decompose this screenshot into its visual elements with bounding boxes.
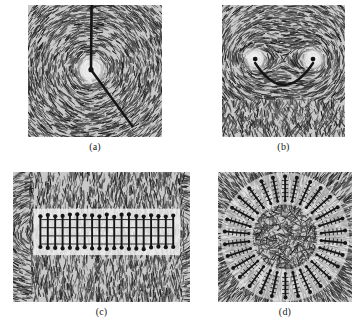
panel-d xyxy=(218,172,352,302)
panel-a-texture xyxy=(28,5,162,137)
panel-b xyxy=(222,5,345,137)
panel-c-caption: (c) xyxy=(13,306,190,317)
figure-root: (a)(b)(c)(d) xyxy=(0,0,362,331)
panel-b-caption: (b) xyxy=(222,141,345,152)
panel-a xyxy=(28,5,162,137)
panel-c xyxy=(13,172,190,302)
panel-d-texture xyxy=(218,172,352,302)
panel-d-caption: (d) xyxy=(218,306,352,317)
panel-a-caption: (a) xyxy=(28,141,162,152)
panel-b-texture xyxy=(222,5,345,137)
panel-c-texture xyxy=(13,172,190,302)
